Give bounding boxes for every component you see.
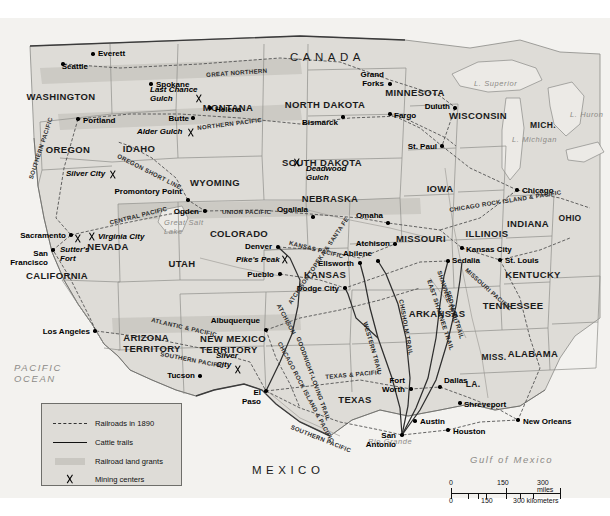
city-label-portland: Portland [83,117,115,125]
water-label-l-michigan: L. Michigan [512,136,557,144]
scale-miles-0: 0 [449,479,453,486]
city-label-kansas-city: Kansas City [466,246,512,254]
state-label-idaho: IDAHO [123,144,155,154]
city-dot-abilene [376,259,379,262]
city-dot-tucson [198,374,201,377]
city-label-austin: Austin [420,418,445,426]
city-dot-ogallala [311,215,314,218]
city-dot-albuquerque [264,328,267,331]
city-label-atchison: Atchison [356,240,390,248]
state-label-minnesota: MINNESOTA [385,88,444,98]
legend-label-cattle-trails: Cattle trails [95,438,133,447]
state-label-nevada: NEVADA [87,242,129,252]
state-label-utah: UTAH [168,259,195,269]
city-dot-everett [91,52,94,55]
water-label-gulf-of-mexico: Gulf of Mexico [470,455,553,465]
city-label-los-angeles: Los Angeles [43,328,90,336]
mining-label-last-chance-gulch: Last ChanceGulch [150,86,198,103]
city-label-st-paul: St. Paul [408,143,437,151]
state-label-ohio: OHIO [558,214,581,223]
mining-label-deadwood-gulch: DeadwoodGulch [306,165,346,182]
legend-label-mining-centers: Mining centers [95,475,144,484]
country-label-mexico: MEXICO [252,465,324,477]
mining-pick-icon-alder-gulch [187,128,196,137]
state-label-kentucky: KENTUCKY [505,270,561,280]
legend-item-land-grants: Railroad land grants [52,454,163,468]
city-label-san-antonio: SanAntonio [366,432,396,449]
city-label-tucson: Tucson [167,372,195,380]
city-label-houston: Houston [453,428,485,436]
state-label-colorado: COLORADO [210,229,268,239]
scale-km-150: 150 [481,497,493,504]
city-dot-new-orleans [516,418,519,421]
city-dot-duluth [453,106,456,109]
state-label-alabama: ALABAMA [508,349,558,359]
cattle-trail-line-icon [52,442,88,443]
city-label-butte: Butte [169,115,189,123]
state-label-mich: MICH. [530,121,556,130]
scale-km-0: 0 [449,497,453,504]
city-label-st-louis: St. Louis [505,257,539,265]
city-dot-st-paul [440,144,443,147]
city-label-ellsworth: Ellsworth [318,260,354,268]
city-dot-dallas [438,385,441,388]
city-label-dallas: Dallas [444,377,468,385]
city-dot-pueblo [278,272,281,275]
city-dot-sacramento [69,233,72,236]
state-label-missouri: MISSOURI [396,234,446,244]
state-label-iowa: IOWA [427,184,454,194]
city-dot-portland [76,117,79,120]
legend-label-land-grants: Railroad land grants [95,457,163,466]
legend-label-railroads: Railroads in 1890 [95,419,154,428]
city-dot-austin [413,419,416,422]
land-grant-swatch-icon [52,458,88,465]
mining-pick-icon-silver-city [109,170,118,179]
state-label-nebraska: NEBRASKA [302,194,359,204]
country-label-canada: CANADA [290,52,365,64]
city-dot-los-angeles [93,329,96,332]
water-label-l-huron: L. Huron [570,111,604,119]
city-label-abilene: Abilene [343,250,372,258]
state-label-texas: TEXAS [338,395,371,405]
city-label-helena: Helena [215,106,241,114]
city-dot-ellsworth [358,261,361,264]
city-dot-butte [191,116,194,119]
city-dot-promontory-point [186,198,189,201]
city-dot-omaha [386,221,389,224]
mining-label-silver-city: Silver City [66,170,105,178]
map-legend: Railroads in 1890 Cattle trails Railroad… [41,403,182,486]
railroad-line-icon [52,423,88,424]
city-dot-denver [276,245,279,248]
scale-miles-150: 150 [497,479,509,486]
city-dot-shreveport [458,401,461,404]
city-label-shreveport: Shreveport [464,401,506,409]
state-label-oregon: OREGON [46,145,90,155]
city-label-ogden: Ogden [174,208,199,216]
city-label-grand-forks: GrandForks [360,71,384,88]
city-label-bismarck: Bismarck [302,119,338,127]
city-dot-helena [208,106,211,109]
city-dot-kansas-city [460,246,463,249]
city-dot-ogden [203,209,206,212]
city-label-albuquerque: Albuquerque [211,317,260,325]
city-label-san-francisco: SanFrancisco [10,250,48,267]
mining-pick-icon-deadwood-gulch [293,158,302,167]
city-dot-fort-worth [409,387,412,390]
city-dot-el-paso [264,389,267,392]
state-label-california: CALIFORNIA [26,271,88,281]
city-label-seattle: Seattle [62,63,88,71]
mining-pick-icon-sutter-s-fort [74,234,83,243]
mining-label-pike-s-peak: Pike's Peak [236,256,280,264]
railroad-label-union-pacific: UNION PACIFIC [222,209,271,215]
city-label-new-orleans: New Orleans [523,418,571,426]
city-label-denver: Denver [245,243,272,251]
legend-item-railroads: Railroads in 1890 [52,416,154,430]
city-dot-chicago [515,188,518,191]
mining-pick-icon-pike-s-peak [281,255,290,264]
state-label-wisconsin: WISCONSIN [449,111,507,121]
city-dot-sedalia [446,259,449,262]
city-dot-houston [446,428,449,431]
city-dot-fargo [388,112,391,115]
mining-pick-icon-virginia-city [88,232,97,241]
city-label-duluth: Duluth [425,103,450,111]
